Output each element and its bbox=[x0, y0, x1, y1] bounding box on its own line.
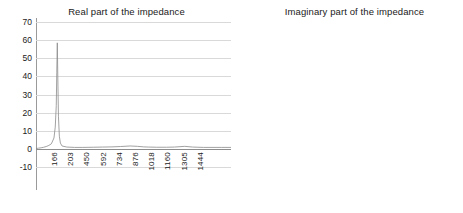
y-axis-tick-label: 0 bbox=[27, 144, 32, 154]
data-series-line bbox=[36, 22, 231, 167]
chart-panel-imaginary: Imaginary part of the impedance 40302010… bbox=[231, 0, 462, 213]
y-axis-tick-label: 70 bbox=[23, 17, 32, 27]
chart-panel-real: Real part of the impedance 7060504030201… bbox=[0, 0, 231, 213]
chart-title-imaginary: Imaginary part of the impedance bbox=[231, 6, 462, 17]
plot-area-real: 706050403020100-101662034505927348761018… bbox=[36, 22, 231, 167]
y-axis-tick-label: 20 bbox=[23, 108, 32, 118]
y-axis-tick-label: 50 bbox=[23, 53, 32, 63]
impedance-charts-figure: Real part of the impedance 7060504030201… bbox=[0, 0, 463, 213]
y-axis-tick-label: -10 bbox=[20, 162, 32, 172]
chart-title-real: Real part of the impedance bbox=[0, 6, 231, 17]
y-axis-tick-label: 40 bbox=[23, 71, 32, 81]
y-axis-tick-label: 10 bbox=[23, 126, 32, 136]
y-axis-tick-label: 30 bbox=[23, 90, 32, 100]
y-axis-tick-label: 60 bbox=[23, 35, 32, 45]
